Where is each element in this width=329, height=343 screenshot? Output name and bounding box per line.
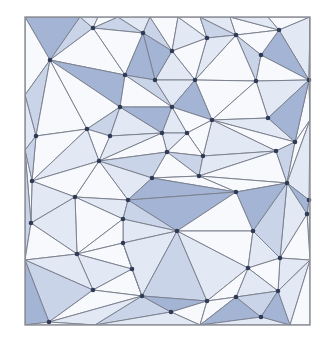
vertex-dot: [30, 179, 35, 184]
vertex-dot: [266, 116, 271, 121]
vertex-dot: [201, 154, 206, 159]
vertex-dot: [91, 26, 96, 31]
vertex-dot: [75, 252, 80, 257]
vertex-dot: [29, 221, 34, 226]
vertex-dot: [153, 78, 158, 83]
vertex-dot: [205, 299, 210, 304]
vertex-dot: [85, 127, 90, 132]
vertex-dot: [277, 28, 282, 33]
vertex-dot: [234, 295, 239, 300]
triangulation-diagram: [0, 0, 329, 343]
vertex-dot: [246, 266, 251, 271]
vertex-dot: [150, 176, 155, 181]
vertex-dot: [165, 150, 170, 155]
vertex-dot: [285, 181, 290, 186]
vertex-dot: [254, 79, 259, 84]
vertex-dot: [251, 229, 256, 234]
vertex-dot: [47, 320, 52, 325]
vertex-dot: [141, 31, 146, 36]
vertex-dot: [305, 212, 310, 217]
vertex-dot: [210, 118, 215, 123]
vertex-dot: [91, 288, 96, 293]
vertex-dot: [205, 36, 210, 41]
vertex-dot: [160, 131, 165, 136]
vertex-dot: [130, 267, 135, 272]
vertex-dot: [276, 289, 281, 294]
vertex-dot: [97, 159, 102, 164]
vertex-dot: [234, 190, 239, 195]
vertex-dot: [293, 140, 298, 145]
vertex-dot: [278, 256, 283, 261]
vertex-dot: [34, 134, 39, 139]
vertex-dot: [259, 315, 264, 320]
vertex-dot: [108, 134, 113, 139]
vertex-dot: [175, 229, 180, 234]
vertex-dot: [126, 198, 131, 203]
vertex-dot: [170, 49, 175, 54]
vertex-dot: [118, 105, 123, 110]
vertex-dot: [185, 131, 190, 136]
vertex-dot: [234, 33, 239, 38]
vertex-dot: [170, 105, 175, 110]
vertex-dot: [48, 58, 53, 63]
vertex-dot: [259, 53, 264, 58]
vertex-dot: [121, 217, 126, 222]
vertex-dot: [121, 241, 126, 246]
vertex-dot: [140, 294, 145, 299]
vertex-dot: [73, 195, 78, 200]
vertex-dot: [197, 174, 202, 179]
vertex-dot: [169, 310, 174, 315]
vertex-dot: [274, 149, 279, 154]
vertex-dot: [123, 73, 128, 78]
triangle-layer: [25, 17, 310, 325]
vertex-dot: [193, 78, 198, 83]
